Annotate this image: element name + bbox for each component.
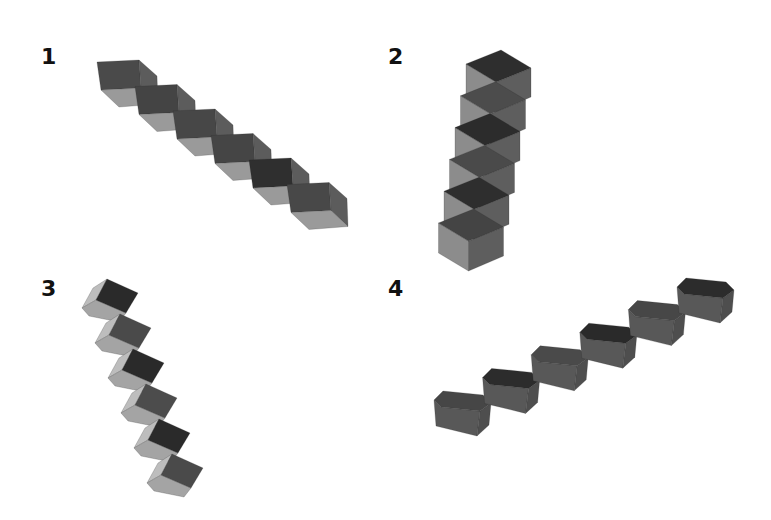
panel-1-cubes xyxy=(97,60,348,230)
cube xyxy=(628,301,685,346)
cube xyxy=(82,279,138,322)
cube xyxy=(108,349,164,392)
cube xyxy=(95,314,151,357)
cube xyxy=(134,419,190,462)
cube xyxy=(434,391,491,436)
panel-3-cubes xyxy=(82,279,203,497)
cube xyxy=(531,346,588,391)
cube xyxy=(677,278,734,323)
cube xyxy=(121,384,177,427)
cube-figure-canvas xyxy=(0,0,771,520)
panel-3-label: 3 xyxy=(41,278,56,300)
cube xyxy=(147,454,203,497)
cube-face-front xyxy=(97,60,141,90)
cube-face-front xyxy=(135,85,179,115)
cube-face-front xyxy=(249,158,293,188)
panel-2-label: 2 xyxy=(388,46,403,68)
cube xyxy=(483,368,540,413)
cube-face-front xyxy=(287,183,331,213)
cube-face-front xyxy=(173,109,217,139)
panel-1-label: 1 xyxy=(41,46,56,68)
panel-4-cubes xyxy=(434,278,734,436)
cube-face-front xyxy=(211,134,255,164)
cube xyxy=(580,323,637,368)
panel-4-label: 4 xyxy=(388,278,403,300)
panel-2-cubes xyxy=(439,50,532,271)
cube xyxy=(287,183,348,230)
